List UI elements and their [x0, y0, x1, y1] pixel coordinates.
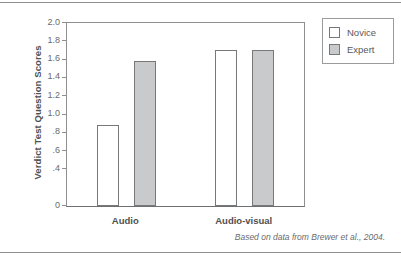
- legend-label-novice: Novice: [347, 27, 376, 38]
- y-axis-tick-label: 1.6: [34, 54, 60, 63]
- plot-area: [66, 22, 305, 207]
- source-note: Based on data from Brewer et al., 2004.: [0, 232, 385, 242]
- y-axis-tick-label: .8: [34, 127, 60, 136]
- y-axis-tick-label: .4: [34, 164, 60, 173]
- y-axis-tick-label: 1.8: [34, 36, 60, 45]
- legend: Novice Expert: [322, 18, 394, 64]
- y-axis-tick-label: 1.0: [34, 109, 60, 118]
- y-axis-tick-label: .6: [34, 146, 60, 155]
- bar-audio-visual-novice: [215, 50, 237, 206]
- legend-label-expert: Expert: [347, 44, 374, 55]
- y-axis-tick-label: 2.0: [34, 18, 60, 27]
- legend-swatch-novice-icon: [329, 27, 340, 38]
- legend-swatch-expert-icon: [329, 44, 340, 55]
- bar-audio-expert: [134, 61, 156, 206]
- x-axis-label-audio-visual: Audio-visual: [184, 215, 304, 226]
- y-axis-tick-label: 0: [34, 201, 60, 210]
- y-axis-tick-label: 1.4: [34, 72, 60, 81]
- y-axis-tick-label: 1.2: [34, 91, 60, 100]
- legend-item-novice: Novice: [329, 24, 388, 41]
- bar-chart-figure: Verdict Test Question Scores 2.01.81.61.…: [0, 0, 401, 260]
- bar-audio-visual-expert: [252, 50, 274, 206]
- x-axis-label-audio: Audio: [65, 215, 185, 226]
- legend-item-expert: Expert: [329, 41, 388, 58]
- bar-audio-novice: [97, 125, 119, 206]
